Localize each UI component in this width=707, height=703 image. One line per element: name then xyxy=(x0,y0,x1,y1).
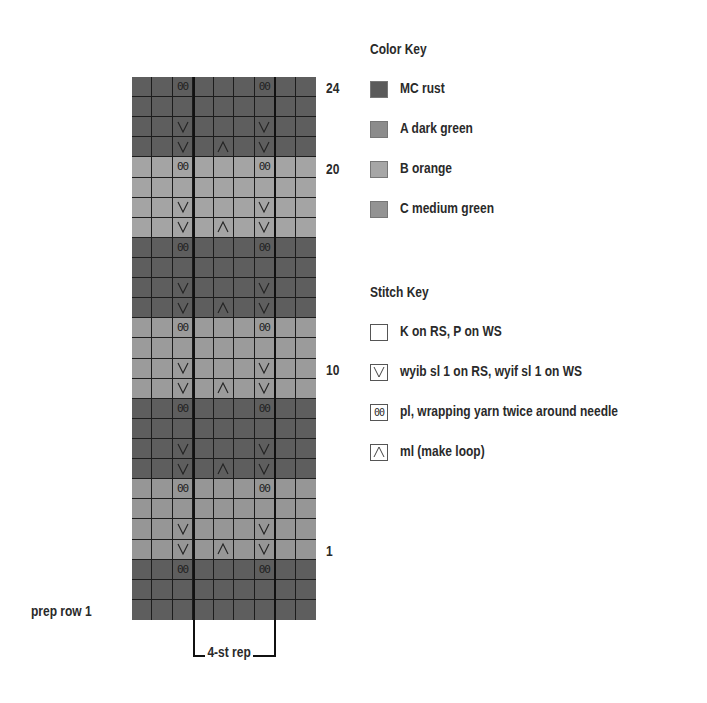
double-wrap-oo-icon: 00 xyxy=(173,238,193,258)
knitting-chart-grid: 0000000000000000000000000000 xyxy=(132,77,316,620)
make-loop-caret-icon xyxy=(214,379,234,399)
chart-cell xyxy=(152,519,172,539)
chart-row-19 xyxy=(132,178,316,198)
chart-cell xyxy=(193,560,213,580)
chart-cell xyxy=(255,580,275,600)
chart-cell xyxy=(234,218,254,238)
chart-cell xyxy=(132,338,152,358)
double-wrap-oo-icon: 00 xyxy=(255,238,275,258)
chart-cell xyxy=(255,338,275,358)
repeat-label: 4-st rep xyxy=(205,643,253,660)
chart-row-prep2 xyxy=(132,580,316,600)
make-loop-caret-icon xyxy=(214,298,234,318)
chart-cell xyxy=(214,258,234,278)
chart-cell xyxy=(193,600,213,620)
chart-cell xyxy=(152,399,172,419)
chart-cell xyxy=(296,540,316,560)
chart-cell xyxy=(296,379,316,399)
chart-row-8: 0000 xyxy=(132,399,316,419)
slip-v-icon xyxy=(255,137,275,157)
chart-cell xyxy=(234,338,254,358)
chart-cell xyxy=(275,540,295,560)
chart-row-7 xyxy=(132,419,316,439)
chart-cell xyxy=(214,399,234,419)
chart-cell xyxy=(275,258,295,278)
row-label-20: 20 xyxy=(326,160,339,177)
chart-cell xyxy=(296,157,316,177)
chart-cell xyxy=(275,379,295,399)
chart-cell xyxy=(296,499,316,519)
chart-cell xyxy=(275,580,295,600)
chart-cell xyxy=(193,298,213,318)
double-wrap-oo-icon: 00 xyxy=(255,77,275,97)
chart-cell xyxy=(152,97,172,117)
chart-cell xyxy=(132,479,152,499)
chart-row-12: 0000 xyxy=(132,318,316,338)
chart-cell xyxy=(214,439,234,459)
row-label-10: 10 xyxy=(326,361,339,378)
chart-cell xyxy=(132,117,152,137)
slip-v-icon xyxy=(173,519,193,539)
chart-cell xyxy=(296,178,316,198)
chart-cell xyxy=(193,238,213,258)
chart-cell xyxy=(296,580,316,600)
color-swatch-a xyxy=(370,121,388,138)
stitch-key-title: Stitch Key xyxy=(370,283,429,300)
chart-cell xyxy=(296,137,316,157)
chart-cell xyxy=(173,258,193,278)
stitch-key-label: K on RS, P on WS xyxy=(400,322,502,339)
slip-v-icon xyxy=(173,459,193,479)
chart-row-23 xyxy=(132,97,316,117)
slip-v-icon xyxy=(255,359,275,379)
chart-cell xyxy=(132,258,152,278)
double-wrap-oo-icon: 00 xyxy=(255,479,275,499)
slip-v-icon xyxy=(173,117,193,137)
double-wrap-oo-icon: 00 xyxy=(173,560,193,580)
chart-cell xyxy=(255,600,275,620)
chart-cell xyxy=(132,77,152,97)
chart-cell xyxy=(296,258,316,278)
chart-cell xyxy=(132,298,152,318)
row-label-24: 24 xyxy=(326,79,339,96)
chart-cell xyxy=(193,278,213,298)
chart-cell xyxy=(132,97,152,117)
double-wrap-oo-icon: 00 xyxy=(255,157,275,177)
chart-cell xyxy=(234,157,254,177)
chart-cell xyxy=(234,580,254,600)
slip-v-icon xyxy=(173,540,193,560)
chart-cell xyxy=(132,238,152,258)
chart-cell xyxy=(296,359,316,379)
chart-cell xyxy=(234,117,254,137)
chart-cell xyxy=(275,359,295,379)
chart-cell xyxy=(296,338,316,358)
slip-v-icon xyxy=(255,278,275,298)
chart-cell xyxy=(193,97,213,117)
chart-cell xyxy=(193,519,213,539)
slip-v-icon xyxy=(173,278,193,298)
chart-cell xyxy=(173,178,193,198)
chart-cell xyxy=(193,258,213,278)
chart-cell xyxy=(234,77,254,97)
chart-cell xyxy=(152,238,172,258)
slip-v-icon xyxy=(255,519,275,539)
color-key-label: A dark green xyxy=(400,119,473,136)
chart-cell xyxy=(214,318,234,338)
chart-cell xyxy=(152,379,172,399)
chart-cell xyxy=(193,580,213,600)
chart-cell xyxy=(193,479,213,499)
chart-row-6 xyxy=(132,439,316,459)
chart-row-15 xyxy=(132,258,316,278)
chart-cell xyxy=(234,519,254,539)
chart-cell xyxy=(275,499,295,519)
chart-row-5 xyxy=(132,459,316,479)
chart-cell xyxy=(234,479,254,499)
chart-cell xyxy=(234,318,254,338)
chart-cell xyxy=(193,439,213,459)
chart-cell xyxy=(173,580,193,600)
chart-cell xyxy=(296,419,316,439)
stitch-key-label: pl, wrapping yarn twice around needle xyxy=(400,402,618,419)
chart-cell xyxy=(193,379,213,399)
chart-cell xyxy=(152,137,172,157)
color-key-item-mc: MC rust xyxy=(370,80,388,98)
color-key-item-b: B orange xyxy=(370,160,388,178)
